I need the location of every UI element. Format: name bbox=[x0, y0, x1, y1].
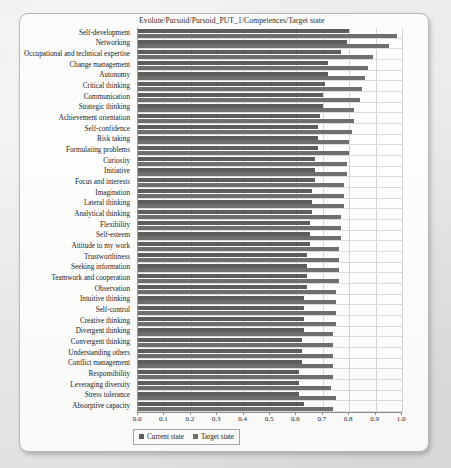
bar-group bbox=[138, 391, 402, 402]
category-label: Initiative bbox=[104, 168, 130, 175]
bar-current-state bbox=[138, 125, 318, 129]
bar-current-state bbox=[138, 168, 315, 172]
x-tick-label: 0.9 bbox=[370, 415, 379, 423]
legend-swatch-icon bbox=[193, 434, 198, 439]
legend-swatch-icon bbox=[139, 434, 144, 439]
bar-current-state bbox=[138, 253, 307, 257]
bar-current-state bbox=[138, 349, 302, 353]
bar-current-state bbox=[138, 136, 318, 140]
category-label: Autonomy bbox=[99, 72, 130, 79]
category-label: Self-control bbox=[96, 307, 130, 314]
bar-group bbox=[138, 380, 402, 391]
bar-group bbox=[138, 284, 402, 295]
bar-current-state bbox=[138, 61, 328, 65]
bar-current-state bbox=[138, 50, 341, 54]
bar-group bbox=[138, 401, 402, 412]
bar-group bbox=[138, 145, 402, 156]
bar-group bbox=[138, 305, 402, 316]
bar-current-state bbox=[138, 200, 312, 204]
legend-item[interactable]: Current state bbox=[139, 433, 184, 441]
category-label: Understanding others bbox=[68, 350, 130, 357]
bar-current-state bbox=[138, 40, 347, 44]
category-label: Creative thinking bbox=[80, 318, 130, 325]
bar-current-state bbox=[138, 242, 310, 246]
bar-group bbox=[138, 135, 402, 146]
category-label: Responsibility bbox=[88, 371, 130, 378]
x-tick-label: 0.8 bbox=[344, 415, 353, 423]
chart-card: Evolute/Pursoid/Pursoid_PUT_1/Competence… bbox=[19, 13, 429, 452]
bar-group bbox=[138, 348, 402, 359]
bar-current-state bbox=[138, 29, 349, 33]
category-label: Strategic thinking bbox=[79, 104, 130, 111]
chart-legend: Current stateTarget state bbox=[133, 429, 240, 445]
bar-group bbox=[138, 337, 402, 348]
bar-group bbox=[138, 113, 402, 124]
bar-group bbox=[138, 92, 402, 103]
category-label: Stress tolerance bbox=[85, 392, 130, 399]
bar-current-state bbox=[138, 370, 299, 374]
category-label: Curiosity bbox=[103, 158, 130, 165]
bar-current-state bbox=[138, 210, 312, 214]
bar-group bbox=[138, 263, 402, 274]
bar-chart: Evolute/Pursoid/Pursoid_PUT_1/Competence… bbox=[20, 14, 428, 451]
bar-current-state bbox=[138, 338, 302, 342]
category-label: Communication bbox=[84, 94, 130, 101]
bar-group bbox=[138, 220, 402, 231]
bar-group bbox=[138, 49, 402, 60]
bar-group bbox=[138, 39, 402, 50]
x-tick-label: 0.5 bbox=[265, 415, 274, 423]
bar-current-state bbox=[138, 402, 304, 406]
category-label: Lateral thinking bbox=[84, 200, 130, 207]
category-label: Risk taking bbox=[97, 136, 130, 143]
bar-group bbox=[138, 199, 402, 210]
legend-label: Current state bbox=[147, 433, 184, 441]
bar-group bbox=[138, 177, 402, 188]
screenshot-root: Evolute/Pursoid/Pursoid_PUT_1/Competence… bbox=[0, 0, 451, 468]
category-label: Seeking information bbox=[71, 264, 130, 271]
category-label: Observation bbox=[95, 286, 130, 293]
bar-group bbox=[138, 359, 402, 370]
category-label: Teamwork and cooperation bbox=[51, 275, 130, 282]
category-label: Focus and interests bbox=[75, 179, 130, 186]
bar-group bbox=[138, 71, 402, 82]
bar-current-state bbox=[138, 146, 318, 150]
category-label: Leveraging diversity bbox=[70, 382, 130, 389]
category-label: Critical thinking bbox=[83, 83, 130, 90]
bar-current-state bbox=[138, 285, 307, 289]
category-label: Divergent thinking bbox=[76, 328, 130, 335]
bar-current-state bbox=[138, 189, 312, 193]
category-axis-labels: Self-developmentNetworkingOccupational a… bbox=[20, 28, 134, 412]
bar-current-state bbox=[138, 178, 315, 182]
x-tick-label: 0.7 bbox=[317, 415, 326, 423]
bar-current-state bbox=[138, 114, 320, 118]
category-label: Achievement orientation bbox=[59, 115, 130, 122]
bar-current-state bbox=[138, 328, 304, 332]
category-label: Flexibility bbox=[100, 222, 130, 229]
x-tick-label: 0.0 bbox=[133, 415, 142, 423]
bar-current-state bbox=[138, 93, 323, 97]
x-tick-label: 0.6 bbox=[291, 415, 300, 423]
bar-current-state bbox=[138, 317, 304, 321]
bar-group bbox=[138, 60, 402, 71]
bar-current-state bbox=[138, 381, 299, 385]
category-label: Attitude to my work bbox=[72, 243, 131, 250]
category-label: Conflict management bbox=[68, 360, 130, 367]
bar-current-state bbox=[138, 296, 304, 300]
bar-group bbox=[138, 209, 402, 220]
category-label: Change management bbox=[70, 62, 130, 69]
bar-group bbox=[138, 124, 402, 135]
bar-group bbox=[138, 273, 402, 284]
legend-item[interactable]: Target state bbox=[193, 433, 234, 441]
bar-current-state bbox=[138, 82, 325, 86]
category-label: Self-confidence bbox=[85, 126, 131, 133]
bar-current-state bbox=[138, 392, 299, 396]
bar-current-state bbox=[138, 232, 310, 236]
bar-group bbox=[138, 327, 402, 338]
bar-group bbox=[138, 369, 402, 380]
x-tick-label: 1.0 bbox=[397, 415, 406, 423]
bar-current-state bbox=[138, 274, 307, 278]
bar-current-state bbox=[138, 104, 323, 108]
bar-current-state bbox=[138, 157, 315, 161]
bar-current-state bbox=[138, 264, 307, 268]
gridline-1.0 bbox=[402, 28, 403, 412]
